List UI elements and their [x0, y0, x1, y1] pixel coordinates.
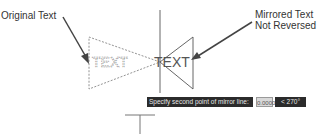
mirrored-callout-line2: Not Reversed [255, 20, 316, 31]
dynamic-input-prompt: Specify second point of mirror line: [147, 97, 253, 107]
mirrored-text-callout: Mirrored Text Not Reversed [255, 9, 316, 31]
dynamic-input-angle: < 270° [275, 97, 306, 107]
dynamic-input-value-field[interactable]: 0.0000 [256, 97, 273, 107]
original-arrow [63, 17, 86, 57]
mirrored-arrow [198, 22, 252, 56]
mirrored-text: TEXT [154, 54, 190, 70]
original-text-callout: Original Text [1, 10, 56, 21]
mirrored-callout-line1: Mirrored Text [255, 9, 316, 20]
original-text: TEXT [92, 54, 128, 70]
mirrored-arrowhead-icon [191, 52, 201, 60]
original-arrowhead-icon [81, 53, 89, 64]
